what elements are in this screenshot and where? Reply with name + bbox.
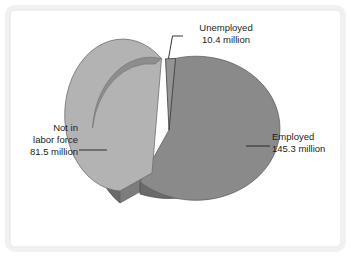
slice-label-employed: Employed 145.3 million: [272, 131, 350, 155]
slice-label-not-in-labor-force-line1: Not in: [4, 122, 78, 134]
slice-employed: [140, 56, 280, 200]
slice-label-unemployed: Unemployed 10.4 million: [174, 22, 278, 46]
slice-label-employed-line1: Employed: [272, 131, 350, 143]
slice-label-not-in-labor-force: Not in labor force 81.5 million: [4, 122, 78, 158]
slice-label-not-in-labor-force-line3: 81.5 million: [4, 146, 78, 158]
slice-label-unemployed-line1: Unemployed: [174, 22, 278, 34]
slice-label-employed-line2: 145.3 million: [272, 143, 350, 155]
slice-label-unemployed-line2: 10.4 million: [174, 34, 278, 46]
slice-label-not-in-labor-force-line2: labor force: [4, 134, 78, 146]
slice-not-in-labor-force: [65, 39, 162, 191]
chart-canvas: Unemployed 10.4 million Not in labor for…: [0, 0, 351, 257]
